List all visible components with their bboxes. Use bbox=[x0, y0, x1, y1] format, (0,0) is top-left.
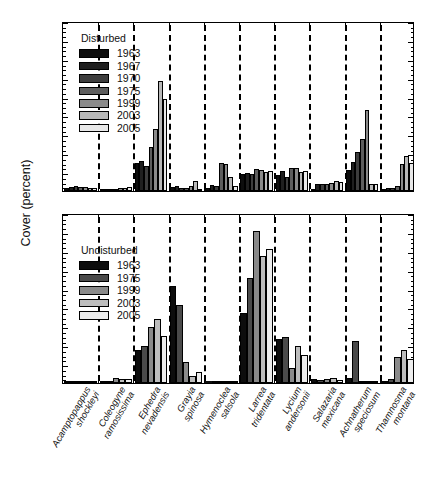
bar bbox=[365, 110, 370, 191]
bar bbox=[127, 187, 132, 191]
bar bbox=[161, 336, 167, 383]
legend-item: 2005 bbox=[79, 309, 140, 321]
legend-swatch bbox=[79, 286, 109, 295]
legend-swatch bbox=[79, 49, 109, 58]
legend-disturbed: Disturbed 1963196719701975199920032005 bbox=[79, 33, 140, 134]
figure: Cover (percent) 024681012141618 Disturbe… bbox=[0, 0, 428, 485]
legend-item: 1999 bbox=[79, 284, 140, 296]
bar-group bbox=[309, 215, 344, 383]
bar-group bbox=[239, 215, 274, 383]
bar bbox=[198, 189, 203, 191]
bar bbox=[92, 188, 97, 191]
legend-label: 1963 bbox=[117, 260, 140, 271]
legend-swatch bbox=[79, 124, 109, 133]
legend-swatch bbox=[79, 299, 109, 308]
legend-item: 1999 bbox=[79, 97, 140, 109]
legend-swatch bbox=[79, 99, 109, 108]
panel-disturbed: 024681012141618 Disturbed 19631967197019… bbox=[62, 22, 414, 192]
bar bbox=[352, 341, 358, 383]
legend-swatch bbox=[79, 87, 109, 96]
legend-item: 1975 bbox=[79, 272, 140, 284]
legend-undisturbed: Undisturbed 19631975199920032005 bbox=[79, 245, 140, 321]
legend-label: 1999 bbox=[117, 98, 140, 109]
bar-group bbox=[274, 215, 309, 383]
legend-item: 2003 bbox=[79, 109, 140, 121]
legend-swatch bbox=[79, 62, 109, 71]
bar bbox=[266, 249, 272, 383]
bar bbox=[337, 380, 343, 383]
bar bbox=[231, 381, 237, 383]
bar bbox=[339, 182, 344, 191]
legend-label: 1975 bbox=[117, 273, 140, 284]
bar bbox=[409, 163, 413, 191]
legend-item: 2003 bbox=[79, 297, 140, 309]
bar-group bbox=[239, 23, 274, 191]
legend-rows-undisturbed: 19631975199920032005 bbox=[79, 260, 140, 322]
bar bbox=[407, 359, 413, 383]
bar bbox=[374, 184, 379, 191]
bar bbox=[303, 171, 308, 191]
panel-undisturbed: 024681012141618 Undisturbed 196319751999… bbox=[62, 214, 414, 384]
legend-swatch bbox=[79, 111, 109, 120]
bar bbox=[90, 381, 96, 383]
legend-label: 2005 bbox=[117, 310, 140, 321]
legend-swatch bbox=[79, 311, 109, 320]
legend-label: 1967 bbox=[117, 61, 140, 72]
bar-group bbox=[169, 23, 204, 191]
bar-group bbox=[380, 215, 413, 383]
y-axis-title: Cover (percent) bbox=[19, 93, 33, 313]
x-axis-labels: AcamptopappusshockleyiColeogyneramosissi… bbox=[62, 385, 414, 485]
bar-group bbox=[274, 23, 309, 191]
legend-label: 2003 bbox=[117, 298, 140, 309]
bar bbox=[125, 379, 131, 383]
legend-swatch bbox=[79, 261, 109, 270]
bar-group bbox=[345, 23, 380, 191]
legend-item: 1967 bbox=[79, 60, 140, 72]
bar bbox=[268, 171, 273, 191]
legend-swatch bbox=[79, 74, 109, 83]
bar bbox=[372, 381, 378, 383]
bar-group bbox=[204, 23, 239, 191]
bar-group bbox=[345, 215, 380, 383]
legend-label: 1975 bbox=[117, 86, 140, 97]
legend-swatch bbox=[79, 274, 109, 283]
bar-group bbox=[169, 215, 204, 383]
legend-item: 2005 bbox=[79, 122, 140, 134]
legend-item: 1963 bbox=[79, 48, 140, 60]
legend-item: 1963 bbox=[79, 260, 140, 272]
legend-title-undisturbed: Undisturbed bbox=[79, 245, 140, 256]
legend-rows-disturbed: 1963196719701975199920032005 bbox=[79, 48, 140, 135]
legend-title-disturbed: Disturbed bbox=[79, 33, 140, 44]
legend-item: 1970 bbox=[79, 72, 140, 84]
legend-label: 2003 bbox=[117, 110, 140, 121]
legend-item: 1975 bbox=[79, 85, 140, 97]
bar bbox=[163, 99, 168, 191]
bar-group bbox=[309, 23, 344, 191]
bar-group bbox=[204, 215, 239, 383]
bar-group bbox=[380, 23, 413, 191]
legend-label: 1970 bbox=[117, 73, 140, 84]
legend-label: 2005 bbox=[117, 123, 140, 134]
legend-label: 1999 bbox=[117, 285, 140, 296]
bar bbox=[196, 372, 202, 383]
legend-label: 1963 bbox=[117, 48, 140, 59]
bar bbox=[233, 186, 238, 191]
bar bbox=[301, 355, 307, 383]
